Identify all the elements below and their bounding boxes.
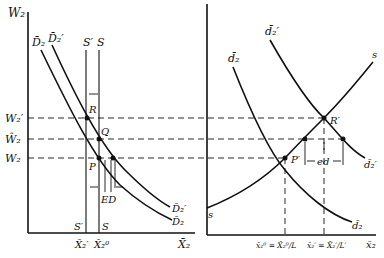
point-P xyxy=(97,156,102,161)
point-ed-right xyxy=(341,137,346,142)
wage-label-W2: W₂ xyxy=(5,152,21,165)
wage-label-W2-hat: Ŵ₂ xyxy=(5,132,21,146)
label-S-top: S xyxy=(97,36,105,49)
x-tick-x2-zero: x̄₂⁰ = X̄₂⁰/L xyxy=(256,241,296,250)
left-y-axis-label: W₂ xyxy=(8,6,25,20)
label-ed: ed xyxy=(317,156,329,167)
label-P: P xyxy=(88,161,96,172)
label-ED: ED xyxy=(100,194,116,205)
x-tick-X2-zero: X̄₂⁰ xyxy=(93,239,109,250)
point-P-prime xyxy=(283,156,288,161)
x-tick-X2-prime: X̄₂′ xyxy=(74,239,89,250)
label-R: R xyxy=(88,104,97,115)
label-Q: Q xyxy=(101,126,109,137)
demand-d2 xyxy=(233,67,352,222)
point-R-prime xyxy=(322,116,327,121)
label-d2-prime-right: d̄₂′ xyxy=(364,159,377,170)
label-S-prime-top: S′ xyxy=(83,36,94,49)
label-d2-prime-top: d̄₂′ xyxy=(265,25,279,38)
label-d2-top: d̄₂ xyxy=(228,52,239,65)
label-S-prime-bottom: S′ xyxy=(74,221,84,232)
demand-d2-prime xyxy=(270,40,365,158)
labor-market-diagram: W₂ W₂′ Ŵ₂ W₂ D̄₂ D̄₂′ S′ S R Q P ED D̄₂… xyxy=(0,0,384,258)
point-ED-right xyxy=(111,156,116,161)
label-D2-right: D̄₂ xyxy=(171,216,184,227)
point-Q xyxy=(97,137,102,142)
label-D2-top: D̄₂ xyxy=(31,36,45,49)
label-d2-right: d̄₂ xyxy=(352,220,362,231)
label-s-bottom: s xyxy=(208,209,213,220)
left-x-axis-label: X̄₂ xyxy=(177,238,190,251)
label-P-prime: P′ xyxy=(290,154,301,165)
supply-curve-s xyxy=(207,62,373,208)
label-D2-prime-top: D̄₂′ xyxy=(47,32,64,45)
label-D2-prime-right: D̄₂′ xyxy=(171,203,187,214)
point-R xyxy=(85,116,90,121)
right-x-axis-label: x̄₂ xyxy=(366,239,376,250)
point-ed-left xyxy=(303,137,308,142)
label-s-top: s xyxy=(372,49,377,60)
label-S-bottom: S xyxy=(102,221,109,232)
x-tick-x2-prime: x̄₂′ = X̄₂′/L′ xyxy=(307,241,347,250)
label-R-prime: R′ xyxy=(329,115,341,126)
wage-label-W2-prime: W₂′ xyxy=(5,112,24,125)
